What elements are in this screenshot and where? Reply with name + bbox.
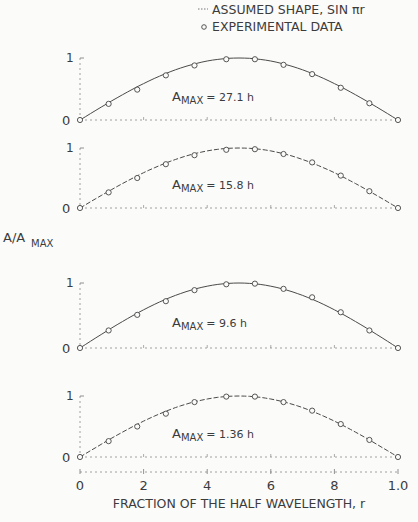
x-tick-label: 8 (330, 478, 338, 493)
data-point (106, 328, 111, 333)
x-tick-label: 4 (203, 478, 211, 493)
amax-annotation: AMAX= 9.6 h (172, 315, 247, 332)
y-tick-label-1: 1 (66, 51, 74, 65)
data-point (77, 454, 82, 459)
data-point (192, 63, 197, 68)
data-point (310, 72, 315, 77)
data-point (252, 147, 257, 152)
data-point (163, 73, 168, 78)
model-curve-sin (80, 283, 398, 348)
data-point (310, 160, 315, 165)
data-point (281, 400, 286, 405)
y-tick-label-1: 1 (66, 276, 74, 290)
data-point (77, 117, 82, 122)
model-curve-sin (80, 396, 398, 457)
legend-entry-model: ASSUMED SHAPE, SIN πr (212, 2, 366, 17)
legend: ASSUMED SHAPE, SIN πr EXPERIMENTAL DATA (198, 2, 366, 34)
data-point (77, 205, 82, 210)
data-point (135, 312, 140, 317)
y-tick-label-0: 0 (62, 113, 70, 128)
data-point (395, 454, 400, 459)
data-point (338, 310, 343, 315)
data-point (224, 57, 229, 62)
panel-1: 10AMAX= 27.1 h (62, 51, 401, 128)
panel-3: 10AMAX= 9.6 h (62, 276, 401, 356)
data-point (106, 190, 111, 195)
data-point (310, 408, 315, 413)
data-point (252, 57, 257, 62)
data-point (395, 345, 400, 350)
model-curve-sin (80, 148, 398, 208)
panel-4: 10AMAX= 1.36 h (62, 389, 401, 465)
data-point (367, 101, 372, 106)
data-point (367, 328, 372, 333)
amax-annotation: AMAX= 27.1 h (172, 89, 254, 106)
data-point (224, 394, 229, 399)
x-ticks: 024681.0 (76, 469, 408, 493)
panels: 10AMAX= 27.1 h10AMAX= 15.8 h10AMAX= 9.6 … (62, 51, 401, 465)
panel-2: 10AMAX= 15.8 h (62, 141, 401, 216)
model-curve-sin (80, 58, 398, 120)
y-tick-label-1: 1 (66, 389, 74, 403)
data-point (192, 400, 197, 405)
data-point (135, 424, 140, 429)
x-tick-label: 1.0 (388, 478, 409, 493)
y-tick-label-0: 0 (62, 201, 70, 216)
data-point (163, 162, 168, 167)
amax-annotation: AMAX= 15.8 h (172, 177, 254, 194)
x-tick-label: 0 (76, 478, 84, 493)
data-point (163, 411, 168, 416)
data-point (281, 151, 286, 156)
data-point (77, 345, 82, 350)
data-point (224, 282, 229, 287)
y-axis-label-main: A/A (3, 230, 25, 245)
data-point (338, 85, 343, 90)
data-point (367, 437, 372, 442)
y-axis-label: A/A MAX (3, 230, 53, 249)
data-point (135, 175, 140, 180)
chart-canvas: ASSUMED SHAPE, SIN πr EXPERIMENTAL DATA … (0, 0, 418, 522)
x-tick-label: 2 (139, 478, 147, 493)
data-point (106, 101, 111, 106)
data-point (192, 153, 197, 158)
data-point (338, 173, 343, 178)
data-point (395, 117, 400, 122)
x-axis-label: FRACTION OF THE HALF WAVELENGTH, r (113, 496, 366, 511)
y-tick-label-0: 0 (62, 341, 70, 356)
data-point (252, 281, 257, 286)
data-point (281, 62, 286, 67)
x-axis: 024681.0 FRACTION OF THE HALF WAVELENGTH… (76, 469, 408, 511)
data-point (163, 299, 168, 304)
data-point (367, 189, 372, 194)
data-point (252, 394, 257, 399)
data-point (135, 87, 140, 92)
data-point (281, 286, 286, 291)
legend-open-circle-icon (202, 25, 207, 30)
data-point (338, 421, 343, 426)
x-tick-label: 6 (267, 478, 275, 493)
data-point (310, 295, 315, 300)
legend-entry-data: EXPERIMENTAL DATA (212, 19, 343, 34)
data-point (106, 439, 111, 444)
data-point (224, 147, 229, 152)
y-axis-label-sub: MAX (31, 238, 53, 249)
data-point (192, 288, 197, 293)
amax-annotation: AMAX= 1.36 h (172, 426, 254, 443)
data-point (395, 205, 400, 210)
y-tick-label-0: 0 (62, 450, 70, 465)
y-tick-label-1: 1 (66, 141, 74, 155)
